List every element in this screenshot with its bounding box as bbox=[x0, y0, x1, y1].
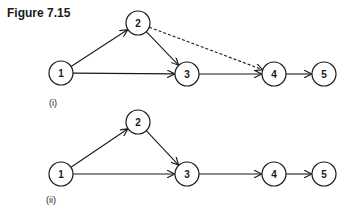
node-2: 2 bbox=[126, 110, 150, 134]
node-2: 2 bbox=[126, 11, 150, 35]
node-label: 2 bbox=[135, 117, 141, 128]
node-1: 1 bbox=[49, 61, 73, 85]
node-3: 3 bbox=[175, 162, 199, 186]
network-diagram: 1234512345 bbox=[0, 0, 352, 218]
node-label: 1 bbox=[58, 68, 64, 79]
node-3: 3 bbox=[175, 62, 199, 86]
node-label: 3 bbox=[184, 69, 190, 80]
node-label: 5 bbox=[321, 69, 327, 80]
node-4: 4 bbox=[262, 162, 286, 186]
node-5: 5 bbox=[312, 62, 336, 86]
edge-1-2 bbox=[71, 129, 127, 167]
edge-1-3 bbox=[73, 73, 174, 74]
edge-1-2 bbox=[71, 30, 127, 66]
node-label: 3 bbox=[184, 169, 190, 180]
edge-2-4 bbox=[149, 27, 262, 69]
node-1: 1 bbox=[49, 162, 73, 186]
node-4: 4 bbox=[262, 62, 286, 86]
node-5: 5 bbox=[312, 162, 336, 186]
node-label: 1 bbox=[58, 169, 64, 180]
node-label: 2 bbox=[135, 18, 141, 29]
node-label: 4 bbox=[271, 169, 277, 180]
node-label: 5 bbox=[321, 169, 327, 180]
edge-2-3 bbox=[146, 131, 178, 165]
node-label: 4 bbox=[271, 69, 277, 80]
